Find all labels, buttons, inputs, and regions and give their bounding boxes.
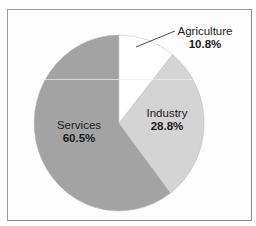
- label-services-name: Services: [56, 119, 102, 132]
- label-agriculture-pct: 10.8%: [176, 38, 234, 51]
- label-services: Services 60.5%: [56, 119, 102, 145]
- label-industry-pct: 28.8%: [145, 120, 189, 133]
- label-industry-name: Industry: [145, 107, 189, 120]
- label-agriculture-name: Agriculture: [176, 25, 234, 38]
- label-agriculture: Agriculture 10.8%: [176, 25, 234, 51]
- label-services-pct: 60.5%: [56, 132, 102, 145]
- label-industry: Industry 28.8%: [145, 107, 189, 133]
